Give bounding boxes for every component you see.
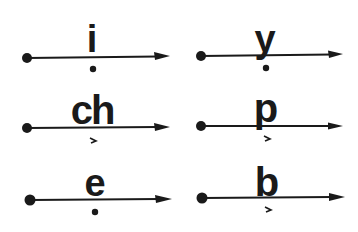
- letter-label: e: [84, 162, 105, 204]
- dot-mark-icon: [90, 66, 96, 72]
- arrow-item-i: i: [22, 18, 170, 72]
- arrow-item-y: y: [196, 18, 343, 71]
- tick-mark-icon: [265, 207, 271, 212]
- arrow-item-p: p: [196, 86, 343, 141]
- letter-label: b: [255, 160, 279, 204]
- arrowhead-icon: [329, 193, 345, 201]
- arrowhead-icon: [155, 195, 172, 203]
- arrow-item-e: e: [25, 162, 173, 215]
- dot-mark-icon: [263, 65, 269, 71]
- arrowhead-icon: [154, 52, 170, 60]
- letter-label: i: [87, 18, 98, 60]
- arrow-item-ch: ch: [22, 88, 170, 143]
- letter-label: y: [254, 18, 275, 60]
- arrow-item-b: b: [197, 160, 346, 212]
- tick-mark-icon: [264, 136, 270, 141]
- arrowhead-icon: [328, 51, 343, 59]
- letter-label: p: [254, 86, 278, 130]
- tick-mark-icon: [90, 138, 96, 143]
- arrowhead-icon: [328, 123, 343, 130]
- dot-mark-icon: [92, 209, 98, 215]
- letter-arrow-diagram: i y ch p e b: [0, 0, 358, 232]
- arrowhead-icon: [154, 123, 170, 131]
- letter-label: ch: [71, 88, 114, 132]
